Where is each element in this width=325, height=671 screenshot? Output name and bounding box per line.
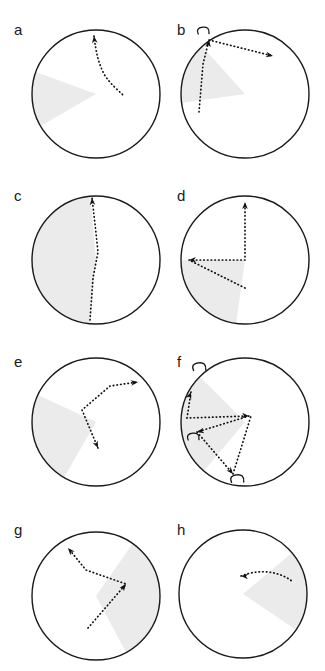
panel-b-label: b <box>177 22 185 37</box>
panel-c-plot <box>0 166 162 334</box>
panel-f-plot <box>163 332 325 500</box>
panel-d: d <box>163 166 325 334</box>
panel-a-plot <box>0 0 162 168</box>
panel-a-trajectory <box>94 36 124 96</box>
panel-a-shaded-sector <box>32 72 96 126</box>
panel-b-shaded-sector <box>181 46 245 102</box>
panel-a-arrowhead-1 <box>91 36 97 44</box>
panel-g-shaded-sector <box>96 544 160 653</box>
panel-d-shaded-sector <box>181 260 245 323</box>
panel-e-shaded-sector <box>32 395 96 477</box>
panel-d-plot <box>163 166 325 334</box>
panel-b-plot <box>163 0 325 168</box>
panel-a-label: a <box>14 22 22 37</box>
panel-g-label: g <box>14 522 22 537</box>
panel-e-trajectory <box>82 382 138 448</box>
panel-f-hook-3 <box>231 475 244 483</box>
panel-a: a <box>0 0 162 168</box>
panel-g-arrowhead-2 <box>66 546 75 555</box>
panel-f-hook-1 <box>193 363 206 371</box>
panel-e: e <box>0 332 162 500</box>
panel-b-hook-1 <box>197 27 209 34</box>
panel-g: g <box>0 500 162 668</box>
panel-h: h <box>163 500 325 668</box>
panel-d-label: d <box>177 188 185 203</box>
panel-f-label: f <box>177 354 181 369</box>
panel-c: c <box>0 166 162 334</box>
panel-h-shaded-sector <box>243 553 307 630</box>
panel-f: f <box>163 332 325 500</box>
panel-c-shaded-sector <box>32 196 96 324</box>
panel-h-label: h <box>177 522 185 537</box>
panel-b: b <box>163 0 325 168</box>
panel-e-arrowhead-1 <box>93 440 101 449</box>
panel-h-plot <box>163 500 325 668</box>
panel-g-plot <box>0 500 162 668</box>
figure-container: abcdefgh <box>0 0 325 671</box>
panel-e-plot <box>0 332 162 500</box>
panel-c-label: c <box>14 188 22 203</box>
panel-e-label: e <box>14 354 22 369</box>
